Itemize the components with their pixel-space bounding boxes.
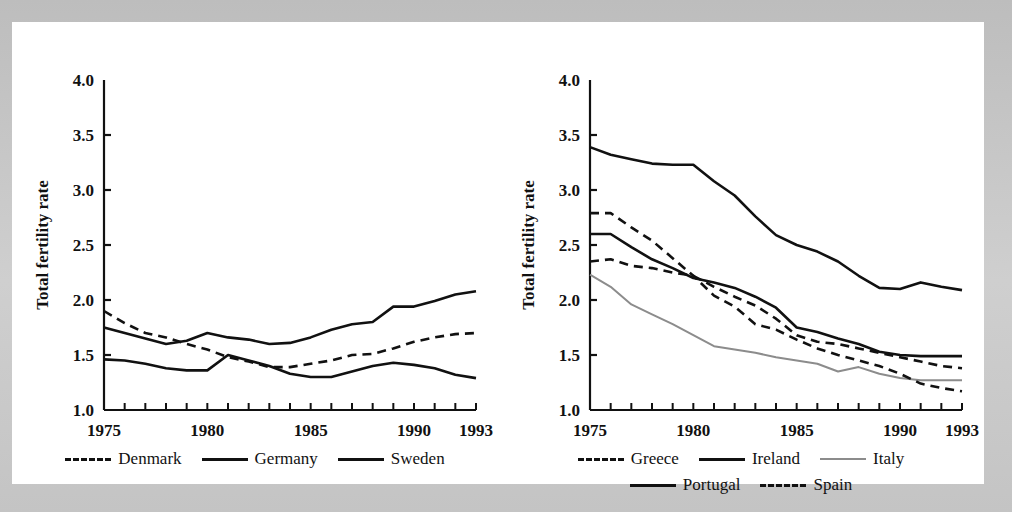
legend-line-swatch-icon <box>578 454 624 465</box>
y-tick-label: 3.5 <box>559 126 580 145</box>
page-sheet: 1.01.52.02.53.03.54.01975198019851990199… <box>12 22 984 484</box>
legend-line-swatch-icon <box>820 454 866 465</box>
y-tick-label: 2.5 <box>559 236 580 255</box>
legend-label: Greece <box>631 446 679 472</box>
y-tick-label: 3.0 <box>73 181 94 200</box>
legend-label: Italy <box>873 446 904 472</box>
legend-label: Spain <box>813 472 852 498</box>
x-tick-label: 1990 <box>397 421 431 440</box>
legend-item-denmark[interactable]: Denmark <box>65 446 181 472</box>
legend-item-sweden[interactable]: Sweden <box>338 446 445 472</box>
x-tick-label: 1985 <box>294 421 328 440</box>
legend-label: Ireland <box>752 446 800 472</box>
y-tick-label: 2.0 <box>73 291 94 310</box>
y-tick-label: 1.0 <box>73 401 94 420</box>
legend-row: DenmarkGermanySweden <box>12 446 498 472</box>
legend-left: DenmarkGermanySweden <box>12 446 498 472</box>
y-tick-label: 2.5 <box>73 236 94 255</box>
legend-row: GreeceIrelandItaly <box>498 446 984 472</box>
legend-label: Germany <box>255 446 318 472</box>
legend-line-swatch-icon <box>202 454 248 465</box>
chart-panel-right: 1.01.52.02.53.03.54.01975198019851990199… <box>498 22 984 484</box>
legend-label: Sweden <box>391 446 445 472</box>
x-tick-label: 1980 <box>676 421 710 440</box>
x-tick-label: 1975 <box>87 421 121 440</box>
series-line-greece <box>590 259 962 368</box>
x-tick-label: 1993 <box>945 421 979 440</box>
x-tick-label: 1990 <box>883 421 917 440</box>
y-tick-label: 3.0 <box>559 181 580 200</box>
legend-line-swatch-icon <box>630 480 676 491</box>
y-axis-title: Total fertility rate <box>33 180 52 310</box>
series-line-ireland <box>590 147 962 290</box>
chart-panel-left: 1.01.52.02.53.03.54.01975198019851990199… <box>12 22 498 484</box>
page-frame: 1.01.52.02.53.03.54.01975198019851990199… <box>0 0 1012 512</box>
y-tick-label: 4.0 <box>559 71 580 90</box>
line-chart-right: 1.01.52.02.53.03.54.01975198019851990199… <box>498 22 984 442</box>
legend-row: PortugalSpain <box>498 472 984 498</box>
y-axis-title: Total fertility rate <box>519 180 538 310</box>
series-line-portugal <box>590 234 962 356</box>
y-tick-label: 2.0 <box>559 291 580 310</box>
legend-line-swatch-icon <box>699 454 745 465</box>
legend-item-italy[interactable]: Italy <box>820 446 904 472</box>
series-line-denmark <box>104 311 476 367</box>
x-tick-label: 1985 <box>780 421 814 440</box>
legend-right: GreeceIrelandItalyPortugalSpain <box>498 446 984 498</box>
y-tick-label: 1.5 <box>73 346 94 365</box>
figure: 1.01.52.02.53.03.54.01975198019851990199… <box>12 22 984 484</box>
x-tick-label: 1993 <box>459 421 493 440</box>
x-tick-label: 1975 <box>573 421 607 440</box>
x-tick-label: 1980 <box>190 421 224 440</box>
y-tick-label: 1.0 <box>559 401 580 420</box>
legend-item-spain[interactable]: Spain <box>760 472 852 498</box>
legend-item-portugal[interactable]: Portugal <box>630 472 741 498</box>
line-chart-left: 1.01.52.02.53.03.54.01975198019851990199… <box>12 22 498 442</box>
y-tick-label: 1.5 <box>559 346 580 365</box>
y-tick-label: 4.0 <box>73 71 94 90</box>
legend-label: Portugal <box>683 472 741 498</box>
legend-item-germany[interactable]: Germany <box>202 446 318 472</box>
series-line-italy <box>590 275 962 381</box>
legend-line-swatch-icon <box>338 454 384 465</box>
y-tick-label: 3.5 <box>73 126 94 145</box>
legend-line-swatch-icon <box>760 480 806 491</box>
legend-item-greece[interactable]: Greece <box>578 446 679 472</box>
legend-item-ireland[interactable]: Ireland <box>699 446 800 472</box>
legend-line-swatch-icon <box>65 454 111 465</box>
legend-label: Denmark <box>118 446 181 472</box>
series-line-spain <box>590 213 962 391</box>
